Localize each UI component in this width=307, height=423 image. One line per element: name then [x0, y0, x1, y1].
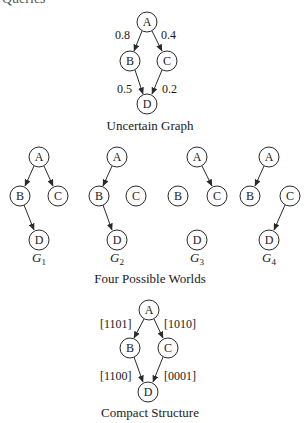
world-g2: A B C D G2 — [89, 147, 146, 267]
svg-text:C: C — [164, 341, 172, 355]
svg-text:D: D — [143, 97, 152, 111]
world-label-g3: G3 — [190, 250, 204, 267]
svg-text:B: B — [174, 189, 182, 203]
edge-label-a-b: 0.8 — [115, 28, 130, 42]
world-label-g2: G2 — [110, 250, 124, 267]
svg-text:D: D — [35, 233, 44, 247]
svg-text:A: A — [265, 150, 274, 164]
node-d: D — [137, 94, 157, 114]
svg-text:B: B — [95, 189, 103, 203]
svg-text:C: C — [132, 189, 140, 203]
svg-text:B: B — [126, 341, 134, 355]
world-g3: A B C D G3 — [168, 147, 227, 267]
svg-text:C: C — [213, 189, 221, 203]
edge-c-d — [152, 70, 162, 94]
uncertain-graph: 0.8 0.4 0.5 0.2 A B C D Uncertain Graph — [107, 12, 194, 133]
world-g4: A B C D G4 — [240, 147, 300, 267]
compact-edge-label-a-c: [1010] — [164, 317, 196, 331]
diagram-canvas: 0.8 0.4 0.5 0.2 A B C D Uncertain Graph … — [0, 0, 307, 423]
node-c: C — [157, 51, 177, 71]
compact-edge-label-b-d: [1100] — [100, 369, 132, 383]
svg-text:A: A — [143, 15, 152, 29]
node-a: A — [137, 12, 157, 32]
edge-label-c-d: 0.2 — [162, 82, 177, 96]
caption-compact-structure: Compact Structure — [101, 405, 199, 420]
node-b: B — [120, 51, 140, 71]
svg-text:C: C — [54, 189, 62, 203]
compact-edge-label-c-d: [0001] — [164, 369, 196, 383]
svg-text:B: B — [16, 189, 24, 203]
edge-a-b — [134, 31, 142, 51]
svg-text:B: B — [126, 54, 134, 68]
svg-text:D: D — [144, 385, 153, 399]
compact-edge-label-a-b: [1101] — [100, 317, 132, 331]
world-g1: A B C D G1 — [10, 147, 68, 267]
caption-uncertain-graph: Uncertain Graph — [107, 118, 194, 133]
world-label-g4: G4 — [262, 250, 276, 267]
svg-text:D: D — [265, 233, 274, 247]
svg-text:C: C — [163, 54, 171, 68]
svg-text:C: C — [286, 189, 294, 203]
svg-text:B: B — [246, 189, 254, 203]
compact-structure: [1101] [1010] [1100] [0001] A B C D Comp… — [100, 300, 199, 420]
edge-label-b-d: 0.5 — [117, 82, 132, 96]
svg-text:A: A — [35, 150, 44, 164]
svg-text:A: A — [193, 150, 202, 164]
edge-label-a-c: 0.4 — [161, 28, 176, 42]
svg-text:A: A — [113, 150, 122, 164]
svg-text:D: D — [193, 233, 202, 247]
svg-text:D: D — [113, 233, 122, 247]
svg-text:A: A — [145, 303, 154, 317]
caption-possible-worlds: Four Possible Worlds — [94, 271, 205, 286]
edge-b-d — [135, 70, 143, 94]
world-label-g1: G1 — [32, 250, 46, 267]
